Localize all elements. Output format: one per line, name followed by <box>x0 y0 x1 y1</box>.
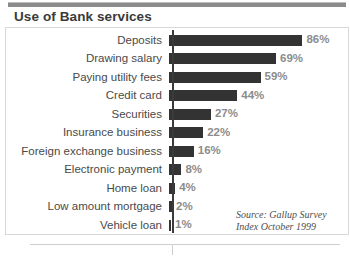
bar <box>169 127 203 138</box>
bar-category-label: Drawing salary <box>0 53 167 65</box>
bar-category-label: Paying utility fees <box>0 72 167 84</box>
bar-category-label: Home loan <box>0 183 167 195</box>
bar-value-label: 86% <box>306 34 329 45</box>
chart-page: Use of Bank services Deposits86%Drawing … <box>0 0 350 258</box>
source-note-line-1: Source: Gallup Survey <box>236 209 327 221</box>
bottom-axis-tick <box>172 244 173 255</box>
bar-value-label: 8% <box>185 164 202 175</box>
bar-category-label: Deposits <box>0 35 167 47</box>
bar-track: 59% <box>167 68 350 87</box>
bottom-divider-rule <box>30 244 340 245</box>
bar-category-label: Vehicle loan <box>0 220 167 232</box>
bar <box>169 53 276 64</box>
bar-row: Drawing salary69% <box>0 50 350 69</box>
bar-row: Paying utility fees59% <box>0 68 350 87</box>
bar-track: 69% <box>167 50 350 69</box>
bar-category-label: Insurance business <box>0 127 167 139</box>
bar-row: Foreign exchange business16% <box>0 142 350 161</box>
bar-value-label: 27% <box>215 108 238 119</box>
bar-track: 27% <box>167 105 350 124</box>
bar-track: 16% <box>167 142 350 161</box>
bar <box>169 90 237 101</box>
bar-row: Credit card44% <box>0 87 350 106</box>
bar-value-label: 2% <box>176 201 193 212</box>
source-note-line-2: Index October 1999 <box>236 221 327 233</box>
bar-value-label: 16% <box>198 145 221 156</box>
bar <box>169 72 261 83</box>
bar-track: 86% <box>167 31 350 50</box>
bar-track: 22% <box>167 124 350 143</box>
top-divider-rule <box>8 2 346 7</box>
bar-row: Securities27% <box>0 105 350 124</box>
bar-category-label: Electronic payment <box>0 164 167 176</box>
bar-track: 4% <box>167 179 350 198</box>
source-note: Source: Gallup Survey Index October 1999 <box>236 209 327 233</box>
bar <box>169 164 181 175</box>
bar-track: 8% <box>167 161 350 180</box>
bar-track: 44% <box>167 87 350 106</box>
bar <box>169 220 171 231</box>
bar <box>169 35 302 46</box>
bar-category-label: Low amount mortgage <box>0 201 167 213</box>
value-axis-line <box>172 30 174 233</box>
bar-row: Home loan4% <box>0 179 350 198</box>
bar-value-label: 22% <box>207 127 230 138</box>
bar-category-label: Securities <box>0 109 167 121</box>
bar-row: Electronic payment8% <box>0 161 350 180</box>
bar-value-label: 4% <box>179 182 196 193</box>
bar-value-label: 44% <box>241 90 264 101</box>
bar <box>169 109 211 120</box>
bar-value-label: 1% <box>175 219 192 230</box>
bar-row: Insurance business22% <box>0 124 350 143</box>
bar-category-label: Foreign exchange business <box>0 146 167 158</box>
page-title: Use of Bank services <box>14 9 152 24</box>
bar-chart-rows: Deposits86%Drawing salary69%Paying utili… <box>0 31 350 235</box>
bar-value-label: 59% <box>265 71 288 82</box>
bar-category-label: Credit card <box>0 90 167 102</box>
bar-row: Deposits86% <box>0 31 350 50</box>
bar-value-label: 69% <box>280 53 303 64</box>
